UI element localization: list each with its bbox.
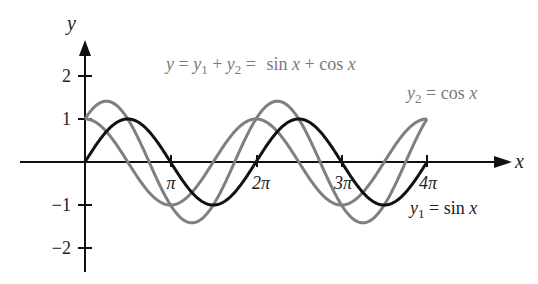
sum-annotation: y = y1 + y2 = sin x + cos x	[164, 54, 356, 77]
x-axis-label: x	[514, 150, 524, 172]
y-axis-label: y	[65, 12, 76, 35]
x-axis-arrow-icon	[494, 156, 512, 168]
sum-of-sinusoids-chart: y x 2 1 −1 −2 π 2π 3π 4π y = y1 + y2 = s…	[0, 0, 538, 284]
y-tick-label-2: 2	[62, 66, 71, 86]
y-tick-label-neg2: −2	[52, 238, 71, 258]
cos-annotation: y2 = cos x	[405, 83, 477, 106]
x-tick-label-3pi: 3π	[333, 173, 353, 193]
x-tick-label-pi: π	[166, 173, 176, 193]
x-tick-label-4pi: 4π	[419, 173, 438, 193]
sin-annotation: y1 = sin x	[408, 198, 477, 221]
x-tick-label-2pi: 2π	[252, 173, 271, 193]
y-tick-label-neg1: −1	[52, 195, 71, 215]
y-tick-label-1: 1	[62, 109, 71, 129]
y-axis-arrow-icon	[79, 40, 91, 56]
